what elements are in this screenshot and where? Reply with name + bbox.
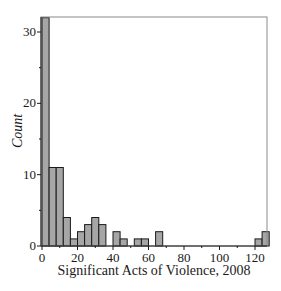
histogram-bar	[134, 239, 141, 246]
histogram-bar	[120, 239, 127, 246]
histogram-bar	[49, 168, 56, 247]
x-tick-label: 0	[39, 250, 46, 265]
plot-frame	[41, 17, 267, 246]
y-tick-label: 10	[23, 167, 36, 182]
histogram-bar	[262, 232, 269, 246]
y-tick-label: 20	[23, 95, 36, 110]
histogram-bar	[78, 232, 85, 246]
y-axis-title: Count	[10, 113, 25, 148]
x-axis-title: Significant Acts of Violence, 2008	[58, 263, 251, 278]
histogram-bar	[92, 218, 99, 247]
histogram-bars	[42, 18, 269, 246]
histogram-chart: 020406080100120 0102030 Significant Acts…	[0, 0, 281, 291]
histogram-bar	[85, 225, 92, 246]
histogram-bar	[255, 239, 262, 246]
histogram-bar	[99, 225, 106, 246]
histogram-bar	[56, 168, 63, 247]
y-axis-ticks: 0102030	[23, 24, 41, 253]
histogram-bar	[113, 232, 120, 246]
histogram-bar	[63, 218, 70, 247]
histogram-bar	[70, 239, 77, 246]
y-tick-label: 0	[30, 238, 37, 253]
histogram-bar	[156, 232, 163, 246]
y-tick-label: 30	[23, 24, 36, 39]
histogram-bar	[42, 18, 49, 246]
histogram-bar	[141, 239, 148, 246]
